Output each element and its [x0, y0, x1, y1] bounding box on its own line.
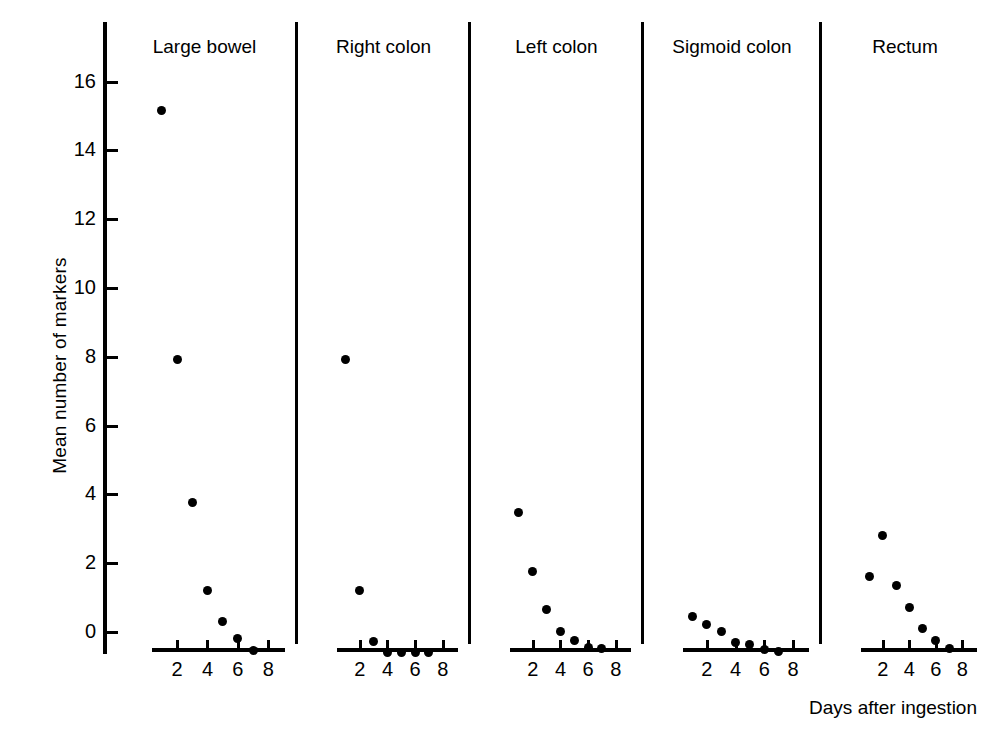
panel-plot-area [112, 22, 297, 632]
x-axis-tick-label: 4 [548, 658, 572, 681]
y-axis-tick-label: 12 [50, 208, 96, 228]
data-point-marker [570, 636, 579, 645]
data-point-marker [702, 620, 711, 629]
x-axis-line [861, 648, 977, 652]
data-point-marker [918, 624, 927, 633]
data-point-marker [203, 586, 212, 595]
multi-panel-scatter-figure: Mean number of markers 0246810121416 Lar… [0, 0, 989, 731]
x-axis-tick-label: 8 [781, 658, 805, 681]
chart-panel: Sigmoid colon2468 [643, 22, 821, 682]
x-axis-tick [792, 640, 795, 649]
data-point-marker [528, 567, 537, 576]
x-axis-title: Days after ingestion [809, 697, 977, 719]
data-point-marker [424, 648, 433, 657]
y-axis-tick-label-wrap: 8 [40, 346, 96, 366]
y-axis-line [103, 22, 107, 654]
x-axis-line [683, 648, 809, 652]
x-axis-tick [176, 640, 179, 649]
x-axis-tick [267, 640, 270, 649]
data-point-marker [688, 612, 697, 621]
data-point-marker [411, 648, 420, 657]
x-axis-tick-label: 6 [924, 658, 948, 681]
x-axis-tick-label: 6 [752, 658, 776, 681]
data-point-marker [173, 355, 182, 364]
x-axis-tick-label: 4 [195, 658, 219, 681]
y-axis-tick-label-wrap: 12 [40, 208, 96, 228]
data-point-marker [514, 508, 523, 517]
data-point-marker [341, 355, 350, 364]
x-axis-tick [559, 640, 562, 649]
data-point-marker [931, 636, 940, 645]
y-axis-tick-label-wrap: 10 [40, 277, 96, 297]
panel-plot-area [470, 22, 643, 632]
data-point-marker [878, 531, 887, 540]
x-axis-tick-label: 4 [897, 658, 921, 681]
x-axis-tick-label: 8 [256, 658, 280, 681]
x-axis-tick [882, 640, 885, 649]
x-axis-tick-label: 6 [576, 658, 600, 681]
data-point-marker [556, 627, 565, 636]
data-point-marker [249, 646, 258, 655]
x-axis-tick-label: 8 [604, 658, 628, 681]
x-axis-tick [532, 640, 535, 649]
y-axis-tick-label: 16 [50, 71, 96, 91]
x-axis-tick-label: 6 [403, 658, 427, 681]
y-axis-tick-label: 14 [50, 139, 96, 159]
x-axis-tick [908, 640, 911, 649]
data-point-marker [717, 627, 726, 636]
x-axis-line [510, 648, 631, 652]
data-point-marker [731, 638, 740, 647]
x-axis-tick [359, 640, 362, 649]
y-axis-tick-label: 4 [50, 483, 96, 503]
data-point-marker [157, 106, 166, 115]
y-axis-tick-label: 10 [50, 277, 96, 297]
chart-panel: Rectum2468 [821, 22, 989, 682]
data-point-marker [383, 648, 392, 657]
y-axis-tick-label-wrap: 16 [40, 71, 96, 91]
data-point-marker [218, 617, 227, 626]
x-axis-tick [706, 640, 709, 649]
chart-panel: Right colon2468 [297, 22, 470, 682]
x-axis-tick-label: 2 [348, 658, 372, 681]
data-point-marker [865, 572, 874, 581]
data-point-marker [892, 581, 901, 590]
y-axis-tick-label: 8 [50, 346, 96, 366]
x-axis-line [152, 648, 285, 652]
x-axis-tick [442, 640, 445, 649]
y-axis-tick-label-wrap: 6 [40, 415, 96, 435]
y-axis-tick-label-wrap: 14 [40, 139, 96, 159]
x-axis-tick-label: 4 [375, 658, 399, 681]
data-point-marker [542, 605, 551, 614]
x-axis-tick-label: 4 [724, 658, 748, 681]
panel-plot-area [821, 22, 989, 632]
x-axis-tick-label: 2 [521, 658, 545, 681]
data-point-marker [233, 634, 242, 643]
y-axis-tick-label-wrap: 4 [40, 483, 96, 503]
data-point-marker [760, 645, 769, 654]
panel-plot-area [297, 22, 470, 632]
data-point-marker [584, 643, 593, 652]
chart-panel: Large bowel2468 [112, 22, 297, 682]
x-axis-tick-label: 6 [226, 658, 250, 681]
x-axis-tick-label: 8 [431, 658, 455, 681]
x-axis-tick-label: 2 [871, 658, 895, 681]
panel-plot-area [643, 22, 821, 632]
x-axis-tick [615, 640, 618, 649]
chart-panel: Left colon2468 [470, 22, 643, 682]
data-point-marker [905, 603, 914, 612]
x-axis-tick-label: 8 [950, 658, 974, 681]
y-axis-tick-label: 6 [50, 415, 96, 435]
y-axis-tick-label-wrap: 2 [40, 552, 96, 572]
y-axis-tick-label: 2 [50, 552, 96, 572]
data-point-marker [945, 644, 954, 653]
x-axis-tick [206, 640, 209, 649]
y-axis-tick-label: 0 [50, 621, 96, 641]
y-axis-tick-label-wrap: 0 [40, 621, 96, 641]
data-point-marker [355, 586, 364, 595]
data-point-marker [369, 637, 378, 646]
data-point-marker [188, 498, 197, 507]
x-axis-tick-label: 2 [165, 658, 189, 681]
data-point-marker [397, 648, 406, 657]
x-axis-tick [961, 640, 964, 649]
x-axis-tick-label: 2 [695, 658, 719, 681]
